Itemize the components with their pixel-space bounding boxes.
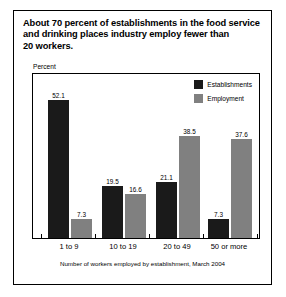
bar-establishments[interactable]: 19.5 xyxy=(102,74,123,238)
bar-rect[interactable] xyxy=(102,186,123,238)
chart-footnote: Number of workers employed by establishm… xyxy=(14,260,271,267)
bar-employment[interactable]: 7.3 xyxy=(71,74,92,238)
x-axis-tick xyxy=(203,234,204,238)
bar-value-label: 16.6 xyxy=(129,186,141,193)
bar-groups: 52.17.319.516.621.138.57.337.6 xyxy=(33,74,259,238)
plot-area: Establishments Employment 52.17.319.516.… xyxy=(32,73,260,239)
bar-group: 7.337.6 xyxy=(207,74,253,238)
x-axis-category-labels: 1 to 910 to 1920 to 4950 or more xyxy=(32,242,260,254)
bar-value-label: 19.5 xyxy=(106,178,118,185)
chart-title-line-2: and drinking places industry employ fewe… xyxy=(23,29,266,40)
x-axis-label-3: 20 to 49 xyxy=(154,242,200,251)
x-axis-label-4: 50 or more xyxy=(206,242,252,251)
bar-employment[interactable]: 37.6 xyxy=(231,74,252,238)
bar-value-label: 7.3 xyxy=(214,211,223,218)
bar-rect[interactable] xyxy=(156,182,177,238)
chart-title-line-3: 20 workers. xyxy=(23,41,266,52)
bar-establishments[interactable]: 7.3 xyxy=(208,74,229,238)
bar-employment[interactable]: 38.5 xyxy=(179,74,200,238)
chart-title: About 70 percent of establishments in th… xyxy=(23,18,266,52)
bar-group: 21.138.5 xyxy=(155,74,201,238)
x-axis-tick xyxy=(257,234,258,238)
bar-value-label: 37.6 xyxy=(235,131,247,138)
x-axis-tick xyxy=(95,234,96,238)
bar-rect[interactable] xyxy=(71,219,92,238)
bar-value-label: 52.1 xyxy=(52,92,64,99)
x-axis-label-2: 10 to 19 xyxy=(100,242,146,251)
bar-group: 19.516.6 xyxy=(101,74,147,238)
bar-establishments[interactable]: 21.1 xyxy=(156,74,177,238)
bar-rect[interactable] xyxy=(179,136,200,238)
bar-rect[interactable] xyxy=(48,100,69,238)
bar-value-label: 7.3 xyxy=(77,211,86,218)
bar-group: 52.17.3 xyxy=(47,74,93,238)
bar-rect[interactable] xyxy=(231,139,252,238)
y-axis-label: Percent xyxy=(33,63,56,70)
bar-value-label: 38.5 xyxy=(183,128,195,135)
bar-establishments[interactable]: 52.1 xyxy=(48,74,69,238)
x-axis-label-1: 1 to 9 xyxy=(46,242,92,251)
bar-rect[interactable] xyxy=(125,194,146,238)
bar-value-label: 21.1 xyxy=(160,174,172,181)
figure-frame: About 70 percent of establishments in th… xyxy=(13,10,272,285)
x-axis-tick xyxy=(41,234,42,238)
x-axis-tick xyxy=(149,234,150,238)
bar-rect[interactable] xyxy=(208,219,229,238)
chart-title-line-1: About 70 percent of establishments in th… xyxy=(23,18,266,29)
bar-employment[interactable]: 16.6 xyxy=(125,74,146,238)
